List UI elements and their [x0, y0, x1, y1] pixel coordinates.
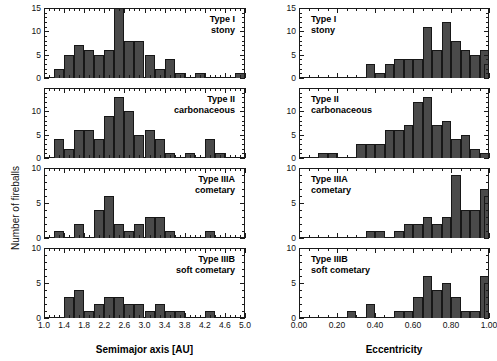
x-tick-label: 3.0 [139, 321, 151, 330]
x-tick [155, 168, 156, 171]
x-tick [165, 153, 166, 158]
x-tick [89, 315, 90, 318]
x-tick-label: 0.40 [367, 321, 384, 330]
x-tick [413, 168, 414, 173]
x-tick [205, 233, 206, 238]
y-tick [299, 304, 302, 305]
y-tick [486, 88, 489, 89]
x-tick [104, 168, 105, 173]
y-tick [486, 125, 489, 126]
x-tick [170, 235, 171, 238]
x-tick [180, 315, 181, 318]
x-tick [318, 315, 319, 318]
y-tick [242, 182, 245, 183]
x-tick [480, 168, 481, 171]
y-tick-label: 0 [36, 154, 41, 163]
histogram-bar [423, 276, 433, 318]
y-tick-label: 10 [287, 164, 296, 173]
y-tick [484, 55, 489, 56]
panel-title-line: soft cometary [311, 265, 370, 276]
x-tick [470, 315, 471, 318]
x-tick [129, 248, 130, 251]
x-tick [225, 73, 226, 78]
x-tick [74, 75, 75, 78]
x-tick [403, 168, 404, 171]
x-tick [205, 153, 206, 158]
x-tick [480, 248, 481, 251]
x-tick [309, 315, 310, 318]
x-tick [230, 168, 231, 171]
x-tick [220, 75, 221, 78]
y-tick [242, 255, 245, 256]
x-tick [89, 88, 90, 91]
y-tick [240, 168, 245, 169]
x-tick [170, 315, 171, 318]
x-tick [145, 168, 146, 173]
histogram-bar [404, 311, 414, 318]
x-tick [160, 235, 161, 238]
x-tick [69, 88, 70, 91]
y-tick [242, 149, 245, 150]
x-tick [230, 235, 231, 238]
y-tick [299, 121, 302, 122]
y-tick [484, 111, 489, 112]
panel-title-line: Type II [311, 94, 372, 105]
y-tick [484, 168, 489, 169]
x-tick [109, 315, 110, 318]
x-tick [175, 75, 176, 78]
y-tick [299, 55, 304, 56]
x-tick [432, 88, 433, 91]
histogram-bar [356, 144, 366, 158]
x-tick [480, 155, 481, 158]
x-tick [139, 8, 140, 11]
x-tick-label: 1.8 [78, 321, 90, 330]
y-tick [44, 59, 47, 60]
x-tick [134, 315, 135, 318]
y-tick [44, 144, 47, 145]
x-tick [432, 248, 433, 251]
y-tick-label: 0 [291, 234, 296, 243]
y-tick [44, 255, 47, 256]
x-tick [394, 235, 395, 238]
x-tick [432, 155, 433, 158]
y-tick [44, 22, 47, 23]
x-tick [375, 233, 376, 238]
x-tick [104, 313, 105, 318]
histogram-panel: 051015Type Istony [44, 8, 245, 78]
x-tick [114, 155, 115, 158]
x-tick [69, 75, 70, 78]
x-tick [114, 248, 115, 251]
histogram-panel: 0510Type IIcarbonaceous [44, 88, 245, 158]
x-tick [210, 88, 211, 91]
x-tick [318, 155, 319, 158]
y-tick [242, 13, 245, 14]
x-tick [185, 248, 186, 253]
y-tick [44, 36, 47, 37]
y-tick [299, 135, 304, 136]
y-tick [486, 22, 489, 23]
y-tick [484, 238, 489, 239]
x-tick [119, 75, 120, 78]
x-tick [94, 235, 95, 238]
x-tick [150, 155, 151, 158]
x-tick [366, 75, 367, 78]
x-tick [480, 75, 481, 78]
x-tick [59, 8, 60, 11]
x-tick [84, 168, 85, 173]
x-tick [139, 235, 140, 238]
x-tick [185, 313, 186, 318]
y-tick [486, 130, 489, 131]
y-tick [299, 158, 304, 159]
x-tick-label: 2.6 [118, 321, 130, 330]
x-tick [215, 235, 216, 238]
x-tick [309, 8, 310, 11]
x-tick [59, 235, 60, 238]
y-tick [44, 102, 47, 103]
x-tick [170, 8, 171, 11]
x-tick [119, 235, 120, 238]
x-tick [185, 233, 186, 238]
x-tick [220, 235, 221, 238]
histogram-bar [432, 224, 442, 238]
x-tick [69, 8, 70, 11]
x-tick [79, 75, 80, 78]
